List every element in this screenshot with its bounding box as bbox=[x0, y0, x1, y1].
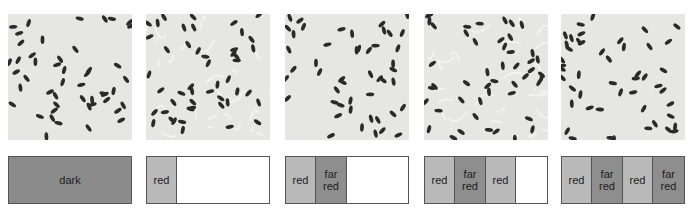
segment-label: red bbox=[293, 174, 309, 186]
seeds-image bbox=[146, 14, 270, 140]
segment-red: red bbox=[486, 157, 516, 203]
seed-photo-dark bbox=[8, 14, 132, 140]
segment-label: farred bbox=[462, 168, 478, 192]
segment-far-red: farred bbox=[592, 157, 623, 203]
panel-red-farred-red-farred: red farred red farred bbox=[561, 0, 687, 217]
panel-red-farred: red farred bbox=[285, 0, 411, 217]
seed-photo-red-farred bbox=[285, 14, 409, 140]
seeds-image bbox=[285, 14, 409, 140]
segment-empty bbox=[516, 157, 547, 203]
light-treatment-bar: red farred red bbox=[424, 156, 548, 204]
seeds-image bbox=[561, 14, 685, 140]
seed-photo-red bbox=[146, 14, 270, 140]
segment-label: farred bbox=[661, 168, 677, 192]
seed-photo-red-farred-red-farred bbox=[561, 14, 685, 140]
segment-label: dark bbox=[59, 174, 80, 186]
segment-red: red bbox=[147, 157, 177, 203]
segment-empty bbox=[347, 157, 408, 203]
segment-label: red bbox=[493, 174, 509, 186]
segment-label: farred bbox=[599, 168, 615, 192]
panel-red-farred-red: red farred red bbox=[424, 0, 550, 217]
segment-far-red: farred bbox=[653, 157, 684, 203]
segment-red: red bbox=[623, 157, 653, 203]
light-treatment-bar: red bbox=[146, 156, 270, 204]
segment-label: red bbox=[569, 174, 585, 186]
segment-label: red bbox=[154, 174, 170, 186]
segment-red: red bbox=[562, 157, 592, 203]
light-treatment-bar: red farred bbox=[285, 156, 409, 204]
segment-label: farred bbox=[323, 168, 339, 192]
seeds-image bbox=[8, 14, 132, 140]
segment-dark: dark bbox=[9, 157, 131, 203]
segment-far-red: farred bbox=[316, 157, 347, 203]
light-treatment-bar: red farred red farred bbox=[561, 156, 685, 204]
light-treatment-bar: dark bbox=[8, 156, 132, 204]
panel-dark: dark bbox=[8, 0, 134, 217]
segment-empty bbox=[177, 157, 269, 203]
segment-red: red bbox=[425, 157, 455, 203]
segment-far-red: farred bbox=[455, 157, 486, 203]
segment-label: red bbox=[630, 174, 646, 186]
seed-photo-red-farred-red bbox=[424, 14, 548, 140]
segment-red: red bbox=[286, 157, 316, 203]
panel-red: red bbox=[146, 0, 272, 217]
seeds-image bbox=[424, 14, 548, 140]
segment-label: red bbox=[432, 174, 448, 186]
